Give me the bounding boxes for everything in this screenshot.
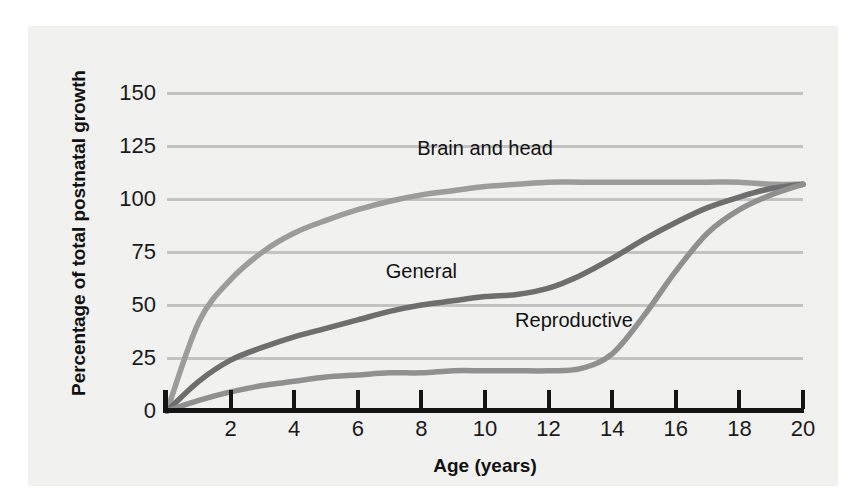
x-axis-tick xyxy=(674,390,678,409)
y-axis-title: Percentage of total postnatal growth xyxy=(68,38,90,428)
gridline xyxy=(167,92,803,95)
x-axis-tick xyxy=(610,390,614,409)
x-axis-title: Age (years) xyxy=(167,455,803,477)
x-axis-tick-label: 18 xyxy=(727,418,751,440)
x-axis-tick-label: 2 xyxy=(224,418,236,440)
x-axis-tick-label: 20 xyxy=(791,418,815,440)
x-axis-tick xyxy=(356,390,360,409)
gridline xyxy=(167,198,803,201)
x-axis-tick xyxy=(483,390,487,409)
y-axis-tick-label: 75 xyxy=(132,241,156,263)
x-axis-tick xyxy=(292,390,296,409)
x-axis-tick xyxy=(419,390,423,409)
y-axis-tick-label: 150 xyxy=(119,82,156,104)
x-axis-tick-label: 6 xyxy=(352,418,364,440)
x-axis-tick xyxy=(547,390,551,409)
y-axis-tick-label: 50 xyxy=(132,294,156,316)
y-axis-tick-label: 0 xyxy=(144,400,156,422)
x-axis-tick xyxy=(737,390,741,409)
y-axis-tick-label: 100 xyxy=(119,188,156,210)
x-axis-tick-label: 14 xyxy=(600,418,624,440)
plot-area: 0255075100125150 xyxy=(167,60,803,411)
chart-figure: Percentage of total postnatal growth 025… xyxy=(0,0,864,503)
x-axis-tick-label: 16 xyxy=(664,418,688,440)
y-axis-tick-label: 25 xyxy=(132,347,156,369)
x-axis-tick xyxy=(801,390,805,409)
curve-label-general: General xyxy=(386,261,457,281)
x-axis-tick-label: 8 xyxy=(415,418,427,440)
y-axis-tick-label: 125 xyxy=(119,135,156,157)
x-axis-tick-label: 4 xyxy=(288,418,300,440)
gridline xyxy=(167,304,803,307)
x-axis-tick-label: 12 xyxy=(536,418,560,440)
curve-label-reproductive: Reproductive xyxy=(515,310,633,330)
curve-label-brain-and-head: Brain and head xyxy=(417,138,553,158)
gridline xyxy=(167,357,803,360)
x-axis-tick xyxy=(229,390,233,409)
x-axis-tick-label: 10 xyxy=(473,418,497,440)
gridline xyxy=(167,251,803,254)
